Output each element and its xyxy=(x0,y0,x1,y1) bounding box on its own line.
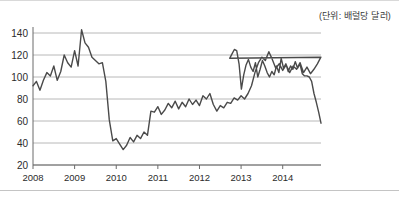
chart-figure: (단위: 배럴당 달러) 20406080100120140 200820092… xyxy=(0,0,399,197)
ytick-label: 140 xyxy=(2,28,28,39)
xtick-label: 2014 xyxy=(263,172,303,183)
xtick-label: 2010 xyxy=(96,172,136,183)
xtick-label: 2012 xyxy=(179,172,219,183)
line-chart-svg xyxy=(0,0,399,197)
ytick-label: 100 xyxy=(2,72,28,83)
xtick-marks-group xyxy=(33,165,283,169)
xtick-label: 2013 xyxy=(221,172,261,183)
xtick-label: 2011 xyxy=(138,172,178,183)
ytick-label: 20 xyxy=(2,160,28,171)
plot-area: 20406080100120140 2008200920102011201220… xyxy=(0,0,399,197)
ytick-label: 120 xyxy=(2,50,28,61)
ytick-label: 60 xyxy=(2,116,28,127)
xtick-label: 2009 xyxy=(55,172,95,183)
gridlines-group xyxy=(33,33,321,165)
ytick-label: 80 xyxy=(2,94,28,105)
xtick-label: 2008 xyxy=(13,172,53,183)
price-series-line xyxy=(33,30,321,150)
ytick-label: 40 xyxy=(2,138,28,149)
